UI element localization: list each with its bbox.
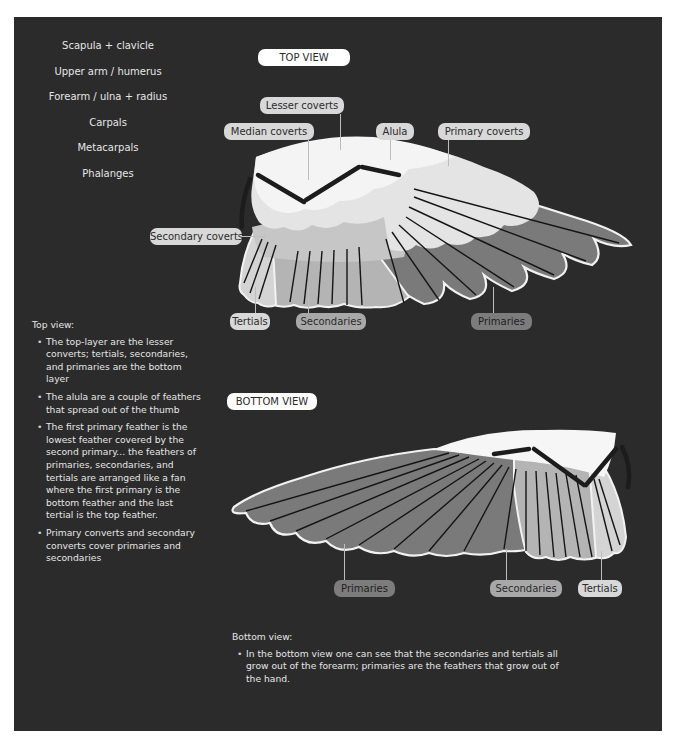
leader-tertials-bottom (601, 551, 602, 580)
leader-secondaries-bottom (506, 549, 507, 580)
bottom-view-notes-list: In the bottom view one can see that the … (232, 648, 572, 686)
label-tertials-bottom: Tertials (578, 580, 622, 597)
label-secondaries-bottom: Secondaries (490, 580, 562, 597)
bottom-view-notes-heading: Bottom view: (232, 631, 572, 644)
bottom-view-notes: Bottom view: In the bottom view one can … (232, 631, 572, 690)
leader-primaries-bottom (344, 544, 345, 580)
label-primaries-bottom: Primaries (334, 580, 395, 597)
bottom-view-note: In the bottom view one can see that the … (246, 648, 572, 686)
diagram-card: Scapula + clavicle Upper arm / humerus F… (14, 17, 662, 731)
bottom-secondaries-shape (514, 457, 599, 560)
bottom-wing-illustration (14, 17, 662, 731)
